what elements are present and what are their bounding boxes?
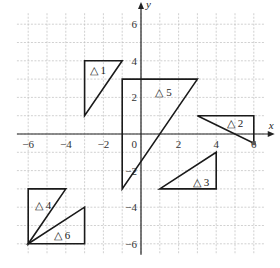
coordinate-plane: xy−6−4−2246642−2−4−60△ 1△ 2△ 3△ 4△ 5△ 6: [0, 0, 280, 268]
y-tick-label: 4: [132, 55, 138, 67]
y-tick-label: −6: [125, 238, 137, 250]
x-tick-label: 4: [213, 138, 219, 150]
x-axis-label: x: [268, 119, 274, 131]
x-tick-label: −2: [98, 138, 110, 150]
y-tick-label: 6: [132, 18, 138, 30]
x-axis-arrow-icon: [268, 131, 275, 137]
origin-label: 0: [132, 138, 138, 150]
triangle-label: △ 1: [90, 64, 106, 76]
x-tick-label: −6: [22, 138, 34, 150]
triangle-label: △ 3: [193, 176, 210, 188]
triangle-label: △ 4: [35, 199, 52, 211]
y-tick-label: −4: [125, 201, 137, 213]
triangle-label: △ 5: [155, 86, 172, 98]
x-tick-label: −4: [60, 138, 72, 150]
marked-point: [252, 141, 256, 145]
triangle-label: △ 2: [227, 117, 243, 129]
triangle-label: △ 6: [54, 229, 71, 241]
triangle-2: [197, 116, 253, 143]
y-axis-arrow-icon: [138, 2, 144, 9]
y-axis-label: y: [145, 0, 151, 10]
x-tick-label: 2: [176, 138, 182, 150]
y-tick-label: 2: [132, 91, 138, 103]
